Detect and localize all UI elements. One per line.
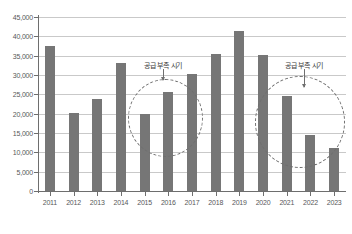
x-axis-tick-label: 2018	[208, 199, 223, 206]
y-axis-tick	[34, 56, 39, 57]
y-axis-tick-label: 0	[29, 188, 33, 195]
y-axis-tick	[34, 172, 39, 173]
y-axis-tick-label: 30,000	[13, 72, 33, 79]
y-axis-tick	[34, 36, 39, 37]
x-axis-tick	[145, 192, 146, 196]
x-axis-tick-label: 2017	[185, 199, 200, 206]
y-axis-tick-label: 10,000	[13, 149, 33, 156]
bar-2017	[187, 74, 197, 191]
x-axis-tick	[50, 192, 51, 196]
y-axis-tick-label: 20,000	[13, 110, 33, 117]
x-axis-tick-label: 2019	[232, 199, 247, 206]
x-axis-tick	[97, 192, 98, 196]
y-axis-tick	[34, 133, 39, 134]
grid-line	[38, 36, 346, 37]
bar-2023	[329, 148, 339, 191]
y-axis-tick	[34, 75, 39, 76]
x-axis-tick	[192, 192, 193, 196]
x-axis-tick-label: 2014	[114, 199, 129, 206]
x-axis-tick	[216, 192, 217, 196]
bar-chart: 05,00010,00015,00020,00025,00030,00035,0…	[0, 0, 352, 234]
x-axis-tick	[168, 192, 169, 196]
plot-area	[38, 17, 346, 191]
x-axis-tick-label: 2013	[90, 199, 105, 206]
y-axis-tick-label: 5,000	[16, 168, 33, 175]
bar-2018	[211, 54, 221, 191]
y-axis-tick-label: 25,000	[13, 91, 33, 98]
x-axis-labels: 2011201220132014201520162017201820192020…	[38, 199, 346, 213]
annotation-arrow-left	[161, 77, 165, 81]
x-axis-tick-label: 2022	[303, 199, 318, 206]
grid-line	[38, 17, 346, 18]
x-axis-tick	[263, 192, 264, 196]
y-axis-tick	[34, 114, 39, 115]
x-axis-tick-label: 2015	[137, 199, 152, 206]
grid-line	[38, 56, 346, 57]
bar-2016	[163, 92, 173, 191]
x-axis-tick	[74, 192, 75, 196]
y-axis-tick	[34, 17, 39, 18]
annotation-arrow-right	[302, 84, 306, 88]
y-axis-tick	[34, 152, 39, 153]
y-axis-tick-label: 45,000	[13, 14, 33, 21]
x-axis-tick-label: 2020	[256, 199, 271, 206]
bar-2020	[258, 55, 268, 191]
bar-2013	[92, 99, 102, 191]
x-axis-ticks	[38, 192, 346, 197]
y-axis-tick	[34, 94, 39, 95]
y-axis-tick-label: 35,000	[13, 52, 33, 59]
x-axis-tick-label: 2012	[66, 199, 81, 206]
x-axis-tick	[287, 192, 288, 196]
x-axis-tick	[121, 192, 122, 196]
y-axis-tick-label: 15,000	[13, 130, 33, 137]
x-axis-tick-label: 2021	[279, 199, 294, 206]
bar-2021	[282, 96, 292, 191]
bar-2012	[69, 113, 79, 191]
bar-2015	[140, 114, 150, 191]
bar-2014	[116, 63, 126, 191]
x-axis-tick	[334, 192, 335, 196]
y-axis-labels: 05,00010,00015,00020,00025,00030,00035,0…	[0, 17, 33, 191]
bar-2022	[305, 135, 315, 191]
y-axis	[38, 15, 39, 193]
bar-2011	[45, 46, 55, 191]
x-axis-tick-label: 2011	[43, 199, 57, 206]
x-axis-tick	[239, 192, 240, 196]
x-axis-tick	[310, 192, 311, 196]
x-axis-tick-label: 2016	[161, 199, 176, 206]
x-axis-tick-label: 2023	[327, 199, 342, 206]
y-axis-tick-label: 40,000	[13, 33, 33, 40]
bar-2019	[234, 31, 244, 191]
